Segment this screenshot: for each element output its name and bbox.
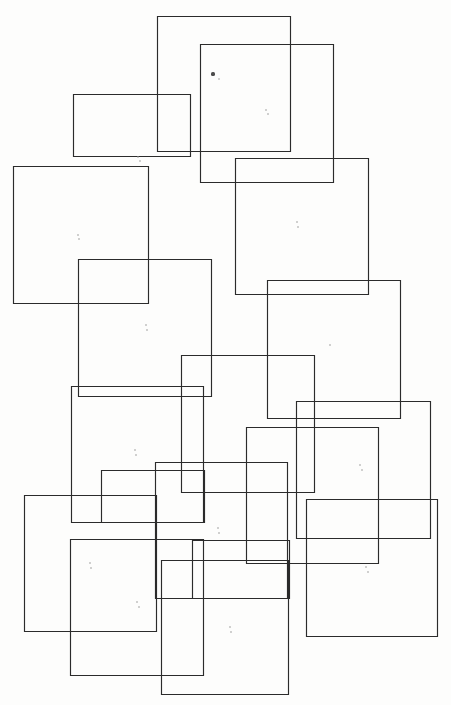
rectangle-shape — [71, 540, 204, 676]
rectangle-shape — [25, 496, 157, 632]
rectangle-shape — [72, 387, 204, 523]
rectangle-shape — [158, 17, 291, 152]
rectangle-shape — [156, 463, 288, 599]
rectangles-svg — [0, 0, 451, 705]
rectangle-shape — [201, 45, 334, 183]
rectangle-shape — [307, 500, 438, 637]
rectangle-shape — [102, 471, 205, 523]
rectangle-shape — [79, 260, 212, 397]
rectangle-shape — [162, 561, 289, 695]
rectangle-shape — [193, 541, 290, 599]
rectangle-shape — [14, 167, 149, 304]
rectangle-shape — [268, 281, 401, 419]
rectangle-shape — [236, 159, 369, 295]
rectangle-shape — [182, 356, 315, 493]
rectangle-shape — [74, 95, 191, 157]
rectangle-shape — [297, 402, 431, 539]
rectangle-shape — [247, 428, 379, 564]
figure-canvas: Overlapping rectangles composition — [0, 0, 451, 705]
